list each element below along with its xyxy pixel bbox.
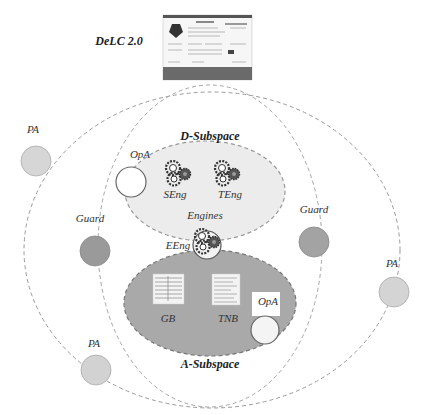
guard-agent-left[interactable]: Guard (76, 212, 110, 266)
guard-left-label: Guard (76, 212, 105, 224)
pa-agent-bottom-left[interactable]: PA (81, 337, 111, 385)
teng-label: TEng (218, 188, 242, 200)
pa-agent-right[interactable]: PA (379, 257, 409, 307)
eeng-label: EEng (165, 239, 191, 251)
a-subspace-label: A-Subspace (180, 357, 240, 371)
pa-agent-top-left[interactable]: PA (21, 123, 51, 176)
tnb-label: TNB (218, 312, 238, 324)
opa-top-label: OpA (130, 148, 150, 160)
guard-right-label: Guard (300, 203, 329, 215)
seng-label: SEng (163, 188, 187, 200)
guard-agent-right[interactable]: Guard (299, 203, 329, 257)
delc-label: DeLC 2.0 (94, 34, 142, 48)
d-subspace: D-Subspace Engines (125, 129, 285, 241)
document-icon (153, 274, 184, 304)
engines-label: Engines (186, 209, 222, 221)
delc-architecture-diagram: A-Subspace D-Subspace Engines SEng TEng … (0, 0, 423, 415)
pa-bottom-left-label: PA (87, 337, 100, 349)
pa-right-label: PA (385, 257, 398, 269)
opa-bottom-label: OpA (258, 295, 278, 307)
document-icon (212, 274, 240, 305)
d-subspace-label: D-Subspace (179, 129, 240, 143)
pa-top-left-label: PA (26, 123, 39, 135)
delc-portal[interactable]: DeLC 2.0 (94, 15, 252, 80)
gb-label: GB (161, 312, 176, 324)
